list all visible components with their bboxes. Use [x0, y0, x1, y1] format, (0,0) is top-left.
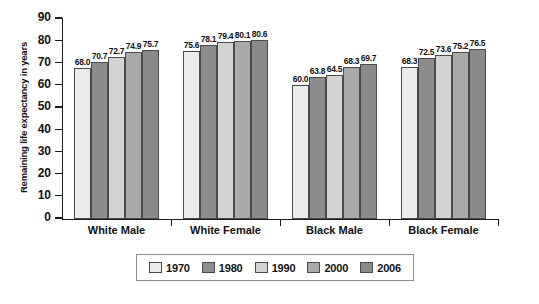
y-axis-tick-label: 20: [38, 166, 51, 180]
bar[interactable]: 76.5: [469, 49, 486, 219]
bar-value-label: 76.5: [470, 38, 485, 48]
y-axis-tick-label: 40: [38, 122, 51, 136]
bar-value-label: 68.0: [75, 57, 90, 67]
legend-label: 2000: [324, 262, 348, 274]
bar-chart: Remaining life expectancy in years 90807…: [0, 0, 539, 304]
plot-area: 9080706050403020100 68.070.772.774.975.7…: [62, 18, 498, 220]
x-axis-category-label: Black Female: [389, 224, 498, 236]
bar-value-label: 69.7: [361, 53, 376, 63]
bar[interactable]: 69.7: [360, 64, 377, 219]
bar-value-label: 75.2: [453, 41, 468, 51]
bar[interactable]: 72.7: [108, 57, 125, 219]
bar[interactable]: 75.7: [142, 50, 159, 218]
bar[interactable]: 60.0: [292, 85, 309, 218]
legend-swatch-icon: [307, 262, 320, 273]
legend-label: 2006: [377, 262, 401, 274]
y-axis-tick-label: 90: [38, 10, 51, 24]
bar-value-label: 74.9: [126, 41, 141, 51]
bar-value-label: 75.7: [143, 39, 158, 49]
bar[interactable]: 68.3: [401, 67, 418, 219]
bar[interactable]: 80.1: [234, 41, 251, 219]
y-axis-tick-label: 0: [44, 210, 51, 224]
legend-label: 1990: [272, 262, 296, 274]
y-axis-tick-label: 60: [38, 77, 51, 91]
bar[interactable]: 80.6: [251, 40, 268, 219]
legend-item[interactable]: 1970: [149, 262, 190, 274]
legend-swatch-icon: [360, 262, 373, 273]
bar-value-label: 60.0: [293, 74, 308, 84]
legend-item[interactable]: 2000: [307, 262, 348, 274]
x-axis-category-label: Black Male: [280, 224, 389, 236]
bar-value-label: 73.6: [436, 44, 451, 54]
y-axis-tick: 90: [55, 17, 62, 18]
y-axis-tick: 10: [55, 195, 62, 196]
bar-value-label: 68.3: [344, 56, 359, 66]
bar[interactable]: 64.5: [326, 75, 343, 218]
bar[interactable]: 68.0: [74, 68, 91, 219]
x-axis-category-label: White Female: [171, 224, 280, 236]
legend-swatch-icon: [202, 262, 215, 273]
bar-value-label: 72.7: [109, 46, 124, 56]
y-axis-tick: 40: [55, 129, 62, 130]
legend-label: 1970: [166, 262, 190, 274]
bar-value-label: 80.1: [235, 30, 250, 40]
bar-value-label: 68.3: [402, 56, 417, 66]
y-axis-tick: 20: [55, 173, 62, 174]
legend-swatch-icon: [255, 262, 268, 273]
x-axis-category-label: White Male: [62, 224, 171, 236]
y-axis-tick: 80: [55, 40, 62, 41]
bar-value-label: 78.1: [201, 34, 216, 44]
bar[interactable]: 70.7: [91, 62, 108, 219]
x-axis-separator-tick: [498, 219, 499, 226]
y-axis-tick-label: 10: [38, 188, 51, 202]
legend-item[interactable]: 1990: [255, 262, 296, 274]
bar[interactable]: 68.3: [343, 67, 360, 219]
y-axis-tick: 50: [55, 106, 62, 107]
y-axis-tick-label: 80: [38, 33, 51, 47]
bar[interactable]: 75.6: [183, 51, 200, 219]
bar-group: 60.063.864.568.369.7: [292, 19, 377, 219]
bar-value-label: 70.7: [92, 51, 107, 61]
bar-group: 68.070.772.774.975.7: [74, 19, 159, 219]
chart-legend: 19701980199020002006: [136, 254, 414, 281]
y-axis-tick: 30: [55, 151, 62, 152]
bar-value-label: 79.4: [218, 31, 233, 41]
bar-group: 68.372.573.675.276.5: [401, 19, 486, 219]
legend-label: 1980: [219, 262, 243, 274]
bar[interactable]: 75.2: [452, 52, 469, 219]
bar-value-label: 64.5: [327, 64, 342, 74]
y-axis-title: Remaining life expectancy in years: [18, 10, 29, 225]
bar[interactable]: 63.8: [309, 77, 326, 219]
bar[interactable]: 78.1: [200, 45, 217, 219]
bar[interactable]: 72.5: [418, 58, 435, 219]
y-axis-tick-label: 50: [38, 99, 51, 113]
bar-value-label: 80.6: [252, 29, 267, 39]
bar-value-label: 63.8: [310, 66, 325, 76]
bar[interactable]: 79.4: [217, 42, 234, 218]
y-axis-line: [62, 18, 63, 220]
bar[interactable]: 73.6: [435, 55, 452, 219]
legend-item[interactable]: 2006: [360, 262, 401, 274]
legend-item[interactable]: 1980: [202, 262, 243, 274]
y-axis-tick: 0: [55, 217, 62, 218]
bar-value-label: 72.5: [419, 47, 434, 57]
legend-swatch-icon: [149, 262, 162, 273]
bar-value-label: 75.6: [184, 40, 199, 50]
y-axis-tick-label: 70: [38, 55, 51, 69]
bar-group: 75.678.179.480.180.6: [183, 19, 268, 219]
y-axis-tick: 60: [55, 84, 62, 85]
bar[interactable]: 74.9: [125, 52, 142, 218]
y-axis-tick-label: 30: [38, 144, 51, 158]
y-axis-tick: 70: [55, 62, 62, 63]
